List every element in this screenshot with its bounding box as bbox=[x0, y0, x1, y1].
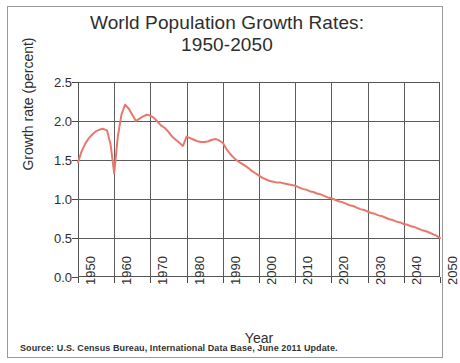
x-axis-tick-label: 1960 bbox=[119, 256, 134, 285]
x-axis-tick-mark bbox=[404, 277, 405, 283]
y-axis-tick-label: 0.0 bbox=[38, 270, 72, 285]
growth-rate-series bbox=[78, 82, 440, 277]
x-axis-tick-label: 1970 bbox=[155, 256, 170, 285]
x-axis-tick-label: 1980 bbox=[192, 256, 207, 285]
x-axis-tick-mark bbox=[78, 277, 79, 283]
chart-title: World Population Growth Rates: 1950-2050 bbox=[20, 12, 434, 55]
x-axis-tick-label: 2030 bbox=[373, 256, 388, 285]
x-axis-tick-label: 1950 bbox=[83, 256, 98, 285]
y-axis-tick-label: 0.5 bbox=[38, 231, 72, 246]
x-axis-tick-mark bbox=[150, 277, 151, 283]
x-axis-tick-mark bbox=[440, 277, 441, 283]
y-axis-tick-label: 2.5 bbox=[38, 75, 72, 90]
x-axis-tick-label: 1990 bbox=[228, 256, 243, 285]
x-axis-tick-label: 2050 bbox=[445, 256, 460, 285]
x-axis-tick-mark bbox=[331, 277, 332, 283]
chart-title-line-2: 1950-2050 bbox=[20, 34, 434, 56]
x-axis-tick-labels: 1950196019701980199020002010202020302040… bbox=[78, 285, 440, 331]
x-axis-tick-label: 2040 bbox=[409, 256, 424, 285]
y-axis-tick-label: 1.0 bbox=[38, 192, 72, 207]
chart-title-line-1: World Population Growth Rates: bbox=[20, 12, 434, 34]
x-axis-tick-mark bbox=[368, 277, 369, 283]
plot-area bbox=[78, 82, 440, 277]
x-axis-tick-mark bbox=[295, 277, 296, 283]
x-axis-tick-mark bbox=[259, 277, 260, 283]
y-axis-tick-label: 1.5 bbox=[38, 153, 72, 168]
source-note: Source: U.S. Census Bureau, Internationa… bbox=[20, 343, 338, 353]
x-axis-tick-label: 2020 bbox=[336, 256, 351, 285]
growth-rate-line bbox=[78, 105, 440, 238]
x-axis-tick-label: 2000 bbox=[264, 256, 279, 285]
x-axis-tick-mark bbox=[223, 277, 224, 283]
x-axis-tick-mark bbox=[187, 277, 188, 283]
y-axis-tick-labels: 0.00.51.01.52.02.5 bbox=[34, 82, 72, 277]
x-axis-tick-label: 2010 bbox=[300, 256, 315, 285]
x-axis-tick-mark bbox=[114, 277, 115, 283]
y-axis-tick-label: 2.0 bbox=[38, 114, 72, 129]
